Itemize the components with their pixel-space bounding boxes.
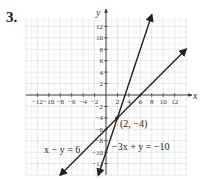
x-tick-label: 6 bbox=[139, 98, 143, 106]
x-tick-label: 8 bbox=[150, 98, 154, 106]
intersection-label: (2, −4) bbox=[120, 118, 147, 130]
x-tick-label: −4 bbox=[79, 98, 87, 106]
y-tick-label: 10 bbox=[96, 34, 104, 42]
y-tick-label: 8 bbox=[100, 46, 104, 54]
y-tick-label: 6 bbox=[100, 57, 104, 65]
y-tick-label: −4 bbox=[96, 114, 104, 122]
x-tick-label: 12 bbox=[171, 98, 179, 106]
x-tick-label: −8 bbox=[57, 98, 65, 106]
line2-equation-label: −3x + y = −10 bbox=[112, 141, 170, 152]
x-tick-label: 2 bbox=[116, 98, 120, 106]
x-tick-label: −12 bbox=[32, 98, 43, 106]
y-tick-label: −2 bbox=[96, 103, 104, 111]
y-tick-label: 2 bbox=[100, 80, 104, 88]
y-tick-label: 4 bbox=[100, 69, 104, 77]
x-tick-label: −10 bbox=[43, 98, 54, 106]
line1-equation-label: x − y = 6 bbox=[44, 144, 80, 155]
x-axis-label: x bbox=[192, 90, 198, 101]
y-tick-label: −10 bbox=[92, 149, 103, 157]
y-axis-label: y bbox=[95, 7, 101, 18]
x-tick-label: −6 bbox=[68, 98, 76, 106]
y-tick-label: 12 bbox=[96, 23, 104, 31]
intersection-point bbox=[115, 116, 119, 120]
x-tick-label: 10 bbox=[160, 98, 168, 106]
coordinate-plane: −12−10−8−6−4−22468101212108642−2−4−6−8−1… bbox=[0, 0, 201, 180]
